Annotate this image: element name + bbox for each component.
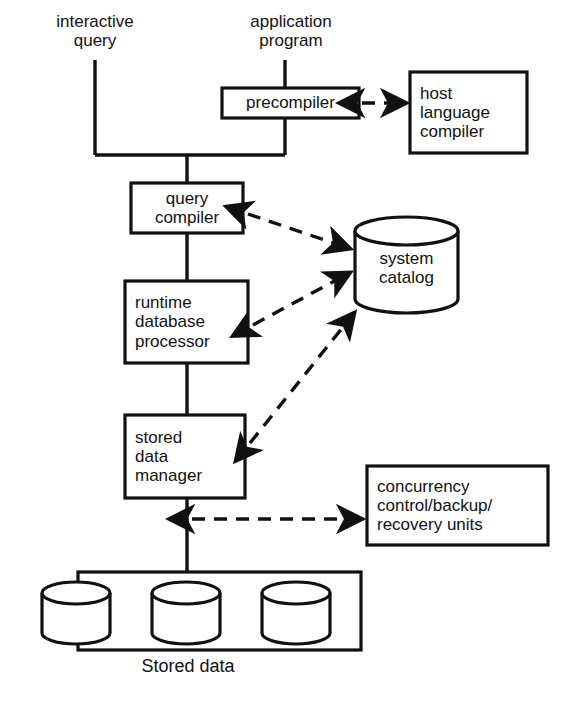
datastore-cylinders [355, 217, 458, 313]
process-boxes [125, 72, 548, 545]
arrow-runtime-catalog [253, 272, 351, 325]
stored-data-caption: Stored data [88, 656, 288, 677]
system-catalog-top [355, 217, 458, 245]
system-catalog-cylinder [355, 217, 458, 313]
stored-data-disk-3 [262, 582, 330, 644]
interactive-query-label: interactivequery [5, 12, 185, 51]
diagram-canvas [0, 0, 567, 717]
host-language-compiler-box [410, 72, 527, 153]
application-program-line: program [259, 31, 322, 50]
runtime-database-processor-box [125, 281, 248, 363]
stored-data-disk-1 [42, 582, 110, 644]
stored-data-manager-box [125, 415, 245, 498]
stored-data-group [42, 572, 361, 650]
interactive-query-line: interactive [56, 12, 133, 31]
concurrency-control-box [367, 466, 548, 545]
interactive-query-line: query [74, 31, 117, 50]
stored-data-disk-1-top [42, 582, 110, 604]
application-program-line: application [250, 12, 331, 31]
dbms-architecture-diagram: precompilerhostlanguagecompilerquerycomp… [0, 0, 567, 717]
arrow-stored-manager-catalog [250, 312, 355, 443]
stored-data-disk-3-top [262, 582, 330, 604]
application-program-label: applicationprogram [201, 12, 381, 51]
precompiler-box [222, 88, 359, 118]
query-compiler-box [131, 183, 243, 233]
stored-data-disk-2-top [152, 582, 220, 604]
stored-data-disk-2 [152, 582, 220, 644]
arrow-query-compiler-catalog [248, 214, 351, 249]
